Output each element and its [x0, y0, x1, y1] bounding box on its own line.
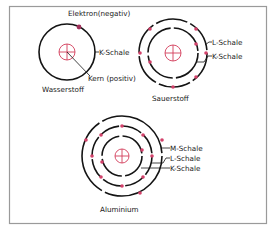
k-shell-label: K-Schale [99, 48, 130, 57]
electron-icon [99, 175, 103, 179]
nucleus-label: Kern (positiv) [88, 74, 136, 83]
electron-label: Elektron(negativ) [68, 9, 131, 18]
atom-name: Sauerstoff [152, 94, 190, 103]
electron-icon [84, 138, 88, 142]
electron-icon [140, 148, 144, 152]
k-shell-label: K-Schale [170, 164, 201, 173]
electron-icon [77, 25, 82, 30]
electron-icon [194, 27, 198, 31]
electron-icon [171, 85, 175, 89]
l-shell-label: L-Schale [170, 154, 201, 163]
atom-aluminium: M-Schale L-Schale K-Schale Aluminium [82, 116, 203, 214]
electron-icon [141, 133, 145, 137]
electron-icon [138, 191, 142, 195]
k-shell-label: K-Schale [212, 52, 243, 61]
electron-icon [141, 175, 145, 179]
electron-icon [148, 27, 152, 31]
electron-icon [204, 51, 208, 55]
atom-oxygen: L-Schale K-Schale Sauerstoff [138, 19, 243, 103]
electron-icon [160, 138, 164, 142]
electron-icon [194, 42, 198, 46]
electron-icon [99, 133, 103, 137]
electron-icon [100, 160, 104, 164]
electron-icon [90, 154, 94, 158]
electron-icon [148, 60, 152, 64]
electron-icon [150, 154, 154, 158]
atom-hydrogen: Elektron(negativ) K-Schale Kern (positiv… [39, 9, 136, 94]
nucleus-icon [165, 45, 181, 61]
electron-icon [120, 184, 124, 188]
electron-icon [138, 51, 142, 55]
atom-name: Wasserstoff [42, 85, 85, 94]
electron-icon [194, 75, 198, 79]
nucleus-icon [115, 149, 129, 163]
atom-models-diagram: Elektron(negativ) K-Schale Kern (positiv… [0, 0, 273, 231]
m-shell-label: M-Schale [170, 144, 203, 153]
electron-icon [120, 124, 124, 128]
atom-name: Aluminium [100, 205, 139, 214]
l-shell-label: L-Schale [212, 38, 243, 47]
